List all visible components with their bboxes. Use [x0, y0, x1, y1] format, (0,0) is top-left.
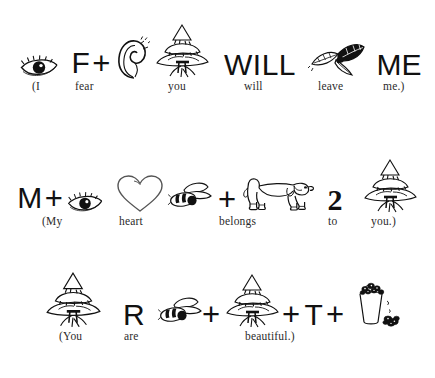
eye-icon — [18, 50, 60, 80]
caption-are: are — [124, 330, 139, 342]
caption-strip: (You are beautiful.) — [0, 330, 435, 352]
caption-i: (I — [32, 80, 40, 92]
dachshund-dog-icon — [238, 171, 314, 215]
caption-will: will — [244, 80, 263, 92]
word-will: WILL — [224, 50, 296, 80]
yew-tree-icon — [360, 157, 420, 215]
letter-r: R — [123, 300, 145, 330]
caption-my: (My — [42, 215, 62, 227]
yew-tree-icon — [222, 272, 282, 330]
letter-f-plus: F + — [68, 46, 114, 80]
number-two: 2 — [328, 185, 343, 215]
rebus-puzzle-page: F + — [0, 0, 435, 378]
rebus-row: M + — [0, 143, 435, 248]
letter-m: M — [17, 183, 43, 213]
leaves-icon — [308, 36, 368, 80]
letter-t: T — [305, 300, 324, 330]
yew-tree-icon — [42, 270, 104, 330]
caption-leave: leave — [318, 80, 343, 92]
glyph-strip: R + — [0, 258, 435, 330]
plus-icon: + — [45, 183, 63, 214]
caption-you: you.) — [371, 215, 396, 227]
caption-me: me.) — [383, 80, 405, 92]
caption-beautiful: beautiful.) — [245, 330, 295, 342]
bee-icon — [168, 181, 216, 215]
rebus-row: R + — [0, 258, 435, 368]
plus-icon: + — [202, 299, 220, 330]
heart-icon — [114, 173, 166, 215]
glyph-strip: F + — [0, 8, 435, 80]
full-cup-icon — [350, 278, 406, 330]
glyph-strip: M + — [0, 143, 435, 215]
caption-to: to — [328, 215, 337, 227]
caption-you: you — [168, 80, 186, 92]
yew-tree-icon — [152, 22, 212, 80]
eye-icon — [64, 187, 106, 215]
caption-belongs: belongs — [219, 215, 256, 227]
plus-icon: + — [218, 184, 236, 215]
caption-fear: fear — [75, 80, 94, 92]
caption-you: (You — [59, 330, 82, 342]
caption-strip: (I fear you will leave me.) — [0, 80, 435, 102]
bee-icon — [158, 280, 206, 330]
rebus-row: F + — [0, 8, 435, 113]
plus-icon: + — [92, 48, 110, 79]
word-me: ME — [377, 50, 422, 80]
letter-m-plus: M + — [16, 181, 64, 215]
letter-f: F — [72, 48, 91, 78]
plus-icon: + — [326, 299, 344, 330]
ear-icon — [114, 36, 150, 80]
caption-heart: heart — [119, 215, 143, 227]
plus-icon: + — [282, 299, 300, 330]
caption-strip: (My heart belongs to you.) — [0, 215, 435, 237]
